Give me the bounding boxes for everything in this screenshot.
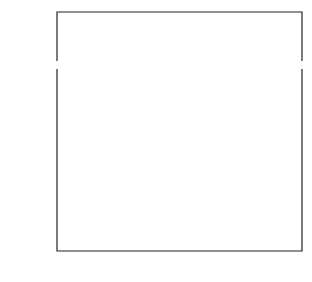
copper-panel-frame — [57, 69, 302, 251]
copper-panel — [57, 69, 302, 251]
urine-copper-chart — [0, 0, 312, 282]
dose-panel — [57, 12, 302, 61]
dose-panel-frame — [57, 12, 302, 61]
